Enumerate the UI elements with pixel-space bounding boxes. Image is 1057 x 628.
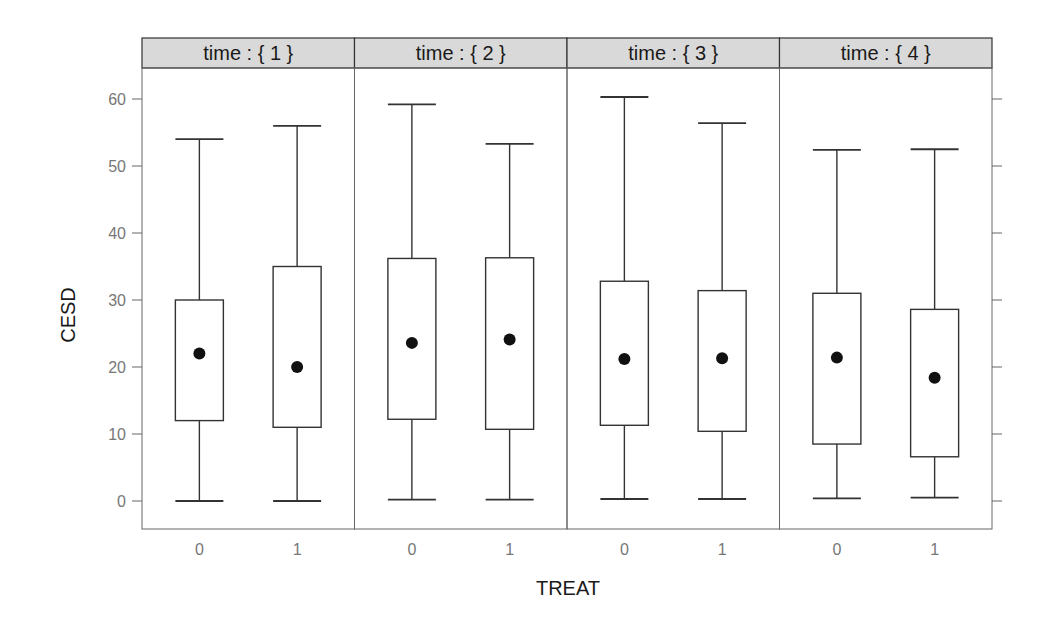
iqr-box bbox=[813, 293, 861, 444]
box-treat-0 bbox=[813, 150, 861, 498]
median-dot bbox=[504, 334, 516, 346]
median-dot bbox=[406, 337, 418, 349]
box-treat-1 bbox=[698, 123, 746, 499]
panel-frame bbox=[780, 68, 993, 529]
box-treat-1 bbox=[486, 144, 534, 500]
box-treat-1 bbox=[273, 126, 321, 501]
y-tick-label: 10 bbox=[108, 426, 126, 443]
iqr-box bbox=[175, 300, 223, 421]
box-treat-0 bbox=[388, 104, 436, 499]
x-tick-label: 1 bbox=[930, 541, 939, 558]
y-tick-label: 50 bbox=[108, 158, 126, 175]
panel-frame bbox=[142, 68, 355, 529]
x-axis: 01010101 bbox=[195, 541, 939, 558]
median-dot bbox=[716, 352, 728, 364]
panel-time-1: time : { 1 } bbox=[142, 38, 355, 529]
strip-label: time : { 1 } bbox=[203, 42, 293, 64]
y-tick-label: 20 bbox=[108, 359, 126, 376]
x-tick-label: 1 bbox=[718, 541, 727, 558]
y-axis: 0102030405060 bbox=[108, 91, 1002, 510]
y-tick-label: 60 bbox=[108, 91, 126, 108]
x-tick-label: 1 bbox=[293, 541, 302, 558]
y-tick-label: 0 bbox=[117, 493, 126, 510]
box-treat-0 bbox=[175, 139, 223, 501]
median-dot bbox=[618, 353, 630, 365]
strip-label: time : { 3 } bbox=[628, 42, 718, 64]
x-tick-label: 0 bbox=[832, 541, 841, 558]
box-treat-1 bbox=[911, 149, 959, 497]
box-treat-0 bbox=[600, 97, 648, 499]
x-tick-label: 0 bbox=[195, 541, 204, 558]
panel-time-4: time : { 4 } bbox=[780, 38, 993, 529]
strip-label: time : { 2 } bbox=[416, 42, 506, 64]
x-axis-title: TREAT bbox=[536, 577, 600, 599]
panel-frame bbox=[567, 68, 780, 529]
iqr-box bbox=[273, 267, 321, 428]
median-dot bbox=[831, 352, 843, 364]
median-dot bbox=[929, 372, 941, 384]
y-tick-label: 40 bbox=[108, 225, 126, 242]
y-axis-title: CESD bbox=[57, 287, 79, 343]
x-tick-label: 1 bbox=[505, 541, 514, 558]
panels: time : { 1 }time : { 2 }time : { 3 }time… bbox=[142, 38, 992, 529]
panel-time-3: time : { 3 } bbox=[567, 38, 780, 529]
strip-label: time : { 4 } bbox=[841, 42, 931, 64]
y-tick-label: 30 bbox=[108, 292, 126, 309]
x-tick-label: 0 bbox=[620, 541, 629, 558]
median-dot bbox=[291, 361, 303, 373]
median-dot bbox=[193, 348, 205, 360]
panel-frame bbox=[355, 68, 568, 529]
panel-time-2: time : { 2 } bbox=[355, 38, 568, 529]
boxplot-chart: time : { 1 }time : { 2 }time : { 3 }time… bbox=[0, 0, 1057, 628]
x-tick-label: 0 bbox=[407, 541, 416, 558]
